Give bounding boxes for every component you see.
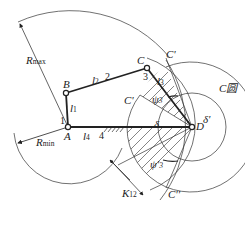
rmax-arc — [18, 11, 170, 58]
label-c-top: C' — [166, 48, 176, 60]
label-k12: K12 — [121, 187, 137, 199]
label-c-prime: C' — [124, 94, 134, 106]
label-link-1: 1 — [60, 115, 65, 126]
label-psi3-prime: ψ'3 — [150, 158, 163, 170]
label-delta: δ — [154, 118, 160, 130]
label-c: C — [137, 54, 145, 66]
psi3-prime-arc — [163, 160, 178, 161]
rmax-line — [20, 24, 68, 127]
label-b: B — [63, 78, 70, 90]
label-delta-prime: δ' — [203, 113, 211, 125]
rmin-label: Rmin — [35, 136, 55, 148]
label-psi3: ψ3 — [152, 93, 163, 105]
label-c-double: C'' — [168, 188, 181, 200]
joint-c — [144, 65, 149, 70]
linkage-diagram: Rmax Rmin B A C D C' C' C'' l1 1 l2 2 3 … — [0, 0, 245, 227]
label-l4: l4 — [83, 130, 90, 142]
joint-b — [63, 90, 68, 95]
label-link-2: 2 — [105, 71, 110, 82]
label-l1: l1 — [70, 102, 77, 114]
label-l2: l2 — [92, 74, 99, 86]
label-link-4: 4 — [99, 130, 104, 141]
rmax-label: Rmax — [25, 54, 46, 66]
joint-d — [189, 124, 194, 129]
joint-a — [65, 124, 70, 129]
label-link-3: 3 — [143, 71, 148, 82]
label-a: A — [63, 130, 71, 142]
label-c-circle: C圆 — [219, 82, 239, 94]
link-l1 — [66, 93, 68, 127]
arc-cdouble — [160, 60, 186, 200]
k12-line-start — [110, 160, 130, 180]
